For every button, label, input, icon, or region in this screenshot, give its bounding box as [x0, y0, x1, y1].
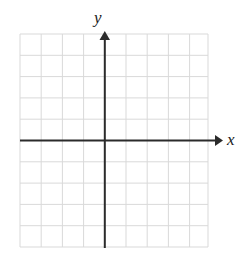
x-axis: [20, 135, 223, 146]
coordinate-plane-figure: y x: [0, 0, 239, 253]
x-axis-label: x: [227, 131, 235, 148]
coordinate-grid-svg: [0, 0, 239, 253]
x-axis-arrowhead-icon: [215, 135, 223, 146]
y-axis-arrowhead-icon: [100, 31, 111, 40]
y-axis-label: y: [94, 9, 102, 26]
